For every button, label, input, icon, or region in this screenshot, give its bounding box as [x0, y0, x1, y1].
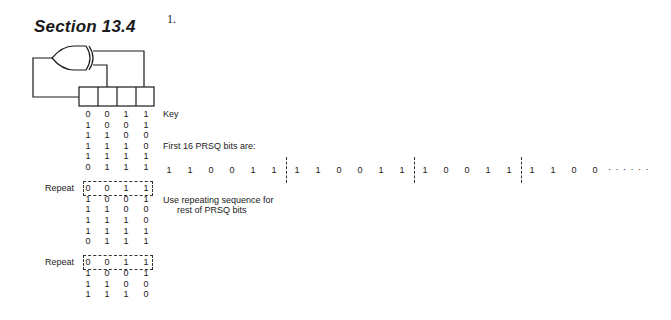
bit-cell: 0: [120, 120, 132, 130]
use-repeating-line1: Use repeating sequence for: [163, 195, 274, 205]
bit-cell: 1: [140, 194, 152, 204]
prsq-bit: 0: [333, 165, 345, 175]
repeat-label: Repeat: [45, 257, 74, 267]
bit-cell: 1: [120, 236, 132, 246]
bit-cell: 0: [120, 204, 132, 214]
bit-cell: 0: [140, 141, 152, 151]
prsq-bit: 1: [184, 165, 196, 175]
bit-cell: 1: [82, 226, 94, 236]
use-repeating-line2: rest of PRSQ bits: [177, 205, 247, 215]
prsq-bit: 0: [226, 165, 238, 175]
bit-cell: 1: [101, 204, 113, 214]
bit-cell: 1: [101, 141, 113, 151]
bit-cell: 1: [101, 226, 113, 236]
group-divider: [521, 157, 522, 183]
bit-cell: 1: [120, 289, 132, 299]
bit-cell: 0: [120, 268, 132, 278]
prsq-bit: 1: [163, 165, 175, 175]
bit-cell: 0: [140, 204, 152, 214]
bit-cell: 1: [101, 289, 113, 299]
bit-cell: 1: [140, 162, 152, 172]
prsq-bit: 1: [547, 165, 559, 175]
prsq-bit: 1: [291, 165, 303, 175]
bit-cell: 1: [101, 279, 113, 289]
bit-cell: 0: [120, 279, 132, 289]
prsq-bit: 0: [354, 165, 366, 175]
bit-cell: 1: [120, 162, 132, 172]
bit-cell: 0: [101, 109, 113, 119]
bit-cell: 1: [82, 289, 94, 299]
bit-cell: 1: [140, 226, 152, 236]
bit-cell: 0: [140, 130, 152, 140]
prsq-bit: 0: [440, 165, 452, 175]
prsq-bit: 1: [503, 165, 515, 175]
prsq-bit: 1: [247, 165, 259, 175]
bit-cell: 0: [140, 289, 152, 299]
prsq-bit: 1: [482, 165, 494, 175]
bit-cell: 0: [140, 279, 152, 289]
bit-cell: 0: [101, 194, 113, 204]
bit-cell: 1: [120, 151, 132, 161]
bit-cell: 1: [82, 204, 94, 214]
prsq-bit: 1: [526, 165, 538, 175]
bit-cell: 1: [101, 236, 113, 246]
prsq-bit: 1: [312, 165, 324, 175]
bit-cell: 1: [82, 130, 94, 140]
key-label: Key: [163, 109, 179, 119]
group-divider: [414, 157, 415, 183]
bit-cell: 1: [140, 109, 152, 119]
bit-cell: 1: [120, 215, 132, 225]
bit-cell: 1: [140, 268, 152, 278]
bit-cell: 1: [82, 120, 94, 130]
prsq-bit: 0: [568, 165, 580, 175]
bit-cell: 1: [82, 151, 94, 161]
xor-gate-icon: [52, 46, 90, 70]
prsq-bit: 0: [205, 165, 217, 175]
bit-cell: 1: [101, 151, 113, 161]
bit-cell: 1: [140, 151, 152, 161]
bit-cell: 0: [140, 215, 152, 225]
ellipsis: · · · · · ·: [608, 164, 650, 174]
bit-cell: 1: [120, 226, 132, 236]
prsq-bit: 0: [589, 165, 601, 175]
bit-cell: 1: [101, 215, 113, 225]
bit-cell: 1: [101, 130, 113, 140]
bit-cell: 0: [101, 268, 113, 278]
bit-cell: 1: [120, 141, 132, 151]
prsq-bit: 1: [268, 165, 280, 175]
bit-cell: 0: [82, 162, 94, 172]
bit-cell: 1: [82, 279, 94, 289]
prsq-bit: 0: [461, 165, 473, 175]
bit-cell: 1: [82, 194, 94, 204]
bit-cell: 1: [140, 236, 152, 246]
bit-cell: 0: [101, 120, 113, 130]
bit-cell: 1: [82, 215, 94, 225]
repeat-label: Repeat: [45, 183, 74, 193]
prsq-bit: 1: [396, 165, 408, 175]
bit-cell: 0: [82, 109, 94, 119]
bit-cell: 1: [82, 141, 94, 151]
bit-cell: 0: [120, 194, 132, 204]
prsq-bit: 1: [375, 165, 387, 175]
bit-cell: 1: [120, 109, 132, 119]
bit-cell: 1: [140, 120, 152, 130]
bit-cell: 0: [82, 236, 94, 246]
bit-cell: 1: [101, 162, 113, 172]
bit-cell: 1: [82, 268, 94, 278]
prsq-bit: 1: [419, 165, 431, 175]
bit-cell: 0: [120, 130, 132, 140]
first-bits-label: First 16 PRSQ bits are:: [163, 141, 256, 151]
group-divider: [286, 157, 287, 183]
